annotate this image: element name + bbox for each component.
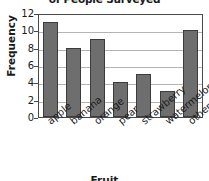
y-tick-label: 4: [14, 78, 34, 88]
x-axis-title: Fruit: [0, 174, 209, 181]
y-tick-mark: [34, 118, 38, 119]
y-tick-label: 0: [14, 113, 34, 123]
y-tick-mark: [34, 101, 38, 102]
y-tick-label: 12: [14, 9, 34, 19]
y-tick-mark: [34, 49, 38, 50]
y-tick-label: 2: [14, 96, 34, 106]
y-axis-tick-labels: 024681012: [14, 0, 34, 181]
y-tick-label: 6: [14, 61, 34, 71]
bar-chart: of People Surveyed Frequency 024681012 a…: [0, 0, 209, 181]
y-tick-mark: [34, 66, 38, 67]
x-axis-tick-labels: applebananaorangepearstrawberrywatermelo…: [38, 118, 203, 173]
y-tick-mark: [34, 83, 38, 84]
y-tick-mark: [34, 14, 38, 15]
y-tick-label: 8: [14, 44, 34, 54]
y-tick-mark: [34, 31, 38, 32]
y-tick-label: 10: [14, 26, 34, 36]
bar: [43, 22, 58, 117]
